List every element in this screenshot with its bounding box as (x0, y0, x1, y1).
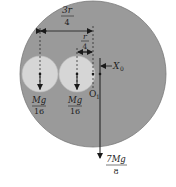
svg-text:0: 0 (120, 65, 124, 72)
label-disc-force: 7Mg 8 (106, 154, 127, 176)
o1-point (92, 73, 95, 76)
svg-text:Mg: Mg (67, 95, 83, 105)
svg-text:7Mg: 7Mg (106, 154, 126, 164)
svg-text:16: 16 (70, 107, 80, 116)
diagram-canvas: 3r 4 r 4 X 0 O 1 Mg 16 Mg 16 7Mg 8 (0, 0, 176, 187)
svg-text:8: 8 (113, 167, 118, 176)
svg-text:4: 4 (64, 18, 69, 27)
svg-text:Mg: Mg (31, 95, 47, 105)
svg-text:3r: 3r (62, 5, 73, 15)
svg-text:16: 16 (34, 107, 44, 116)
svg-text:4: 4 (83, 42, 88, 51)
svg-text:X: X (112, 61, 120, 71)
svg-text:1: 1 (96, 93, 100, 100)
center-of-mass-point (99, 73, 102, 76)
